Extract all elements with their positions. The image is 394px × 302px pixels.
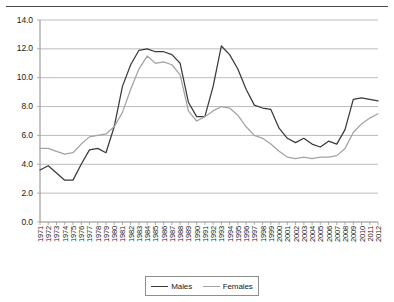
legend-line-swatch	[151, 286, 168, 287]
x-tick-label: 1993	[217, 226, 226, 242]
legend-line-swatch	[203, 286, 220, 287]
x-tick-label: 2005	[316, 226, 325, 242]
x-tick-label: 2001	[283, 226, 292, 242]
y-tick-label: 0.0	[3, 217, 33, 227]
legend-entry-males: Males	[151, 282, 192, 291]
legend-label: Males	[171, 282, 192, 291]
x-tick-label: 2009	[349, 226, 358, 242]
y-tick-label: 6.0	[3, 130, 33, 140]
y-tick-label: 2.0	[3, 188, 33, 198]
y-tick-label: 8.0	[3, 101, 33, 111]
y-tick-label: 10.0	[3, 72, 33, 82]
series-line-females	[40, 56, 378, 158]
y-tick-label: 14.0	[3, 15, 33, 25]
chart-legend: MalesFemales	[145, 276, 259, 296]
y-tick-label: 4.0	[3, 159, 33, 169]
legend-entry-females: Females	[203, 282, 253, 291]
x-tick-label: 1997	[250, 226, 259, 242]
y-tick-label: 12.0	[3, 43, 33, 53]
legend-label: Females	[223, 282, 253, 291]
chart-figure: 0.02.04.06.08.010.012.014.0 197119721973…	[0, 0, 394, 302]
x-tick-label: 2012	[374, 226, 383, 242]
line-chart-plot	[0, 0, 394, 302]
gridlines	[40, 20, 378, 222]
